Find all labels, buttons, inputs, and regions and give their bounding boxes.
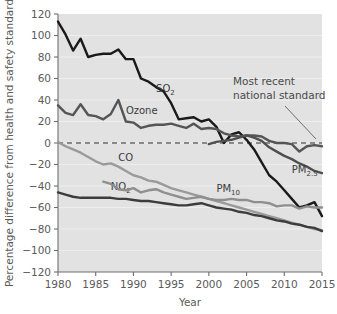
y-tick-label--80: −80 [29,223,51,235]
x-tick-label-1980: 1980 [45,278,72,290]
y-tick-label--20: −20 [29,158,51,170]
y-tick-label-0: 0 [44,137,51,149]
annotation-line1: Most recent [233,75,295,87]
x-tick-label-1995: 1995 [158,278,185,290]
x-tick-label-1985: 1985 [82,278,109,290]
y-axis-title: Percentage difference from health and sa… [3,0,15,287]
y-tick-label-100: 100 [31,29,51,41]
y-tick-label--60: −60 [29,201,51,213]
y-tick-label-40: 40 [38,94,51,106]
line-chart: 120100806040200−20−40−60−80−100−12019801… [0,0,337,314]
x-tick-label-2000: 2000 [195,278,222,290]
x-tick-label-1990: 1990 [120,278,147,290]
chart-figure: 120100806040200−20−40−60−80−100−12019801… [0,0,337,314]
y-tick-label--40: −40 [29,180,51,192]
y-tick-label-60: 60 [38,72,51,84]
y-tick-label-80: 80 [38,51,51,63]
series-label-CO: CO [118,152,133,163]
y-tick-label-120: 120 [31,8,51,20]
series-label-Ozone: Ozone [126,105,158,116]
x-tick-label-2015: 2015 [309,278,336,290]
x-tick-label-2005: 2005 [233,278,260,290]
y-tick-label-20: 20 [38,115,51,127]
y-tick-label--120: −120 [22,266,51,278]
y-tick-label--100: −100 [22,244,51,256]
x-tick-label-2010: 2010 [271,278,298,290]
caption-partial [8,302,329,314]
annotation-line2: national standard [233,89,325,101]
